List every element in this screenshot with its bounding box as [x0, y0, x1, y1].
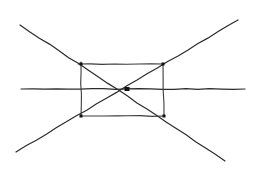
diagonal-ascending: [16, 20, 238, 152]
rect-right-edge: [163, 64, 164, 116]
rect-bottom-edge: [81, 116, 164, 117]
horizon-line: [21, 89, 245, 90]
lines-layer: [16, 20, 245, 161]
corner-mark: [80, 115, 83, 118]
corner-mark: [80, 63, 83, 66]
corner-mark: [162, 63, 165, 66]
corner-mark: [163, 115, 166, 118]
rect-left-edge: [81, 62, 82, 116]
diagram-canvas: [0, 0, 262, 173]
center-point-mark: [125, 87, 130, 91]
